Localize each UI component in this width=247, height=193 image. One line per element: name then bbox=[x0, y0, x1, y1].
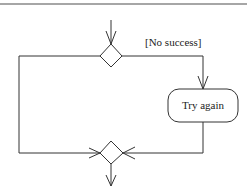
try-again-label: Try again bbox=[168, 89, 238, 122]
decision-diamond bbox=[100, 44, 122, 67]
incoming-arrow bbox=[106, 20, 116, 44]
success-flow bbox=[19, 56, 100, 158]
merge-diamond bbox=[100, 141, 123, 164]
retry-return-flow bbox=[123, 122, 203, 159]
no-success-flow bbox=[122, 56, 208, 89]
outgoing-arrow bbox=[106, 164, 116, 186]
guard-label: [No success] bbox=[145, 36, 202, 48]
